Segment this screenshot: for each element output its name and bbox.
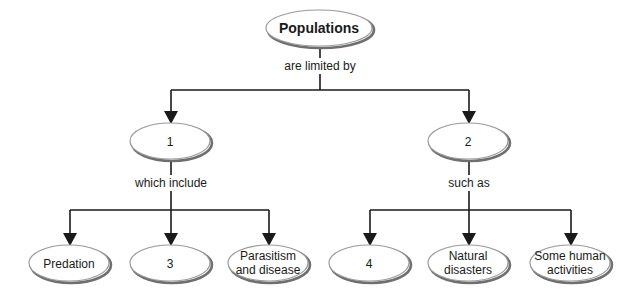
branch2-link-label: such as xyxy=(448,176,489,190)
arrow-down-icon xyxy=(262,233,276,246)
branch-node-2: 2 xyxy=(428,123,510,161)
leaf-node-natural-disasters: Natural disasters xyxy=(428,245,510,283)
arrow-down-icon xyxy=(564,233,578,246)
leaf-node-4: 4 xyxy=(329,245,411,283)
root-label: Populations xyxy=(279,20,359,36)
arrow-down-icon xyxy=(462,111,476,124)
leaf-label: 4 xyxy=(366,257,373,271)
leaf-label-line2: disasters xyxy=(444,263,492,277)
leaf-label-line1: Some human xyxy=(534,249,605,263)
arrow-down-icon xyxy=(164,111,178,124)
leaf-label: 3 xyxy=(167,257,174,271)
concept-map: are limited by which include such as Pop… xyxy=(0,0,644,294)
branch-node-1: 1 xyxy=(130,123,212,161)
arrow-down-icon xyxy=(462,233,476,246)
leaf-node-3: 3 xyxy=(130,245,212,283)
leaf-node-predation: Predation xyxy=(29,245,111,283)
leaf-node-parasitism: Parasitism and disease xyxy=(228,245,310,283)
leaf-label-line1: Natural xyxy=(449,249,488,263)
root-node: Populations xyxy=(266,10,374,48)
arrow-down-icon xyxy=(164,233,178,246)
leaf-label-line2: activities xyxy=(547,263,593,277)
root-link-label: are limited by xyxy=(284,59,355,73)
branch2-label: 2 xyxy=(465,135,472,149)
branch1-label: 1 xyxy=(167,135,174,149)
branch1-link-label: which include xyxy=(134,176,207,190)
arrow-down-icon xyxy=(63,233,77,246)
arrow-down-icon xyxy=(363,233,377,246)
leaf-label: Predation xyxy=(43,257,94,271)
leaf-label-line1: Parasitism xyxy=(240,249,296,263)
leaf-label-line2: and disease xyxy=(236,263,301,277)
leaf-node-human-activities: Some human activities xyxy=(530,245,612,283)
